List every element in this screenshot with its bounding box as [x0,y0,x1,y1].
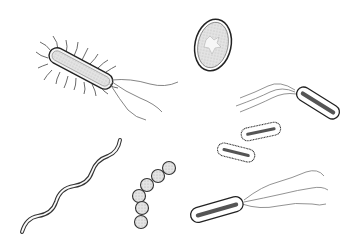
bacillus-peritrichous [36,36,178,120]
streptococcus [133,162,176,229]
bacteria-illustration [0,0,356,247]
bacillus-flagellated [189,171,328,225]
small-bacilli-pair [216,121,282,163]
spirillum [22,140,120,232]
spore-oval [190,16,236,74]
bacillus-polar-flagella [236,84,342,122]
